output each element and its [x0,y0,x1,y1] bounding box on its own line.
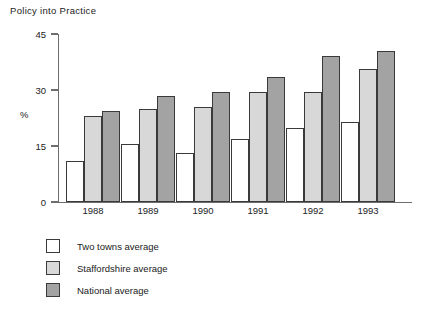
bar [194,107,212,202]
y-axis-tick-label: 45 [0,29,46,40]
bar [231,139,249,202]
x-axis-tick-label: 1988 [82,205,103,216]
bar [286,128,304,202]
y-axis-tick [51,201,58,202]
bar [304,92,322,202]
legend-item: Staffordshire average [46,260,168,276]
x-axis-tick-label: 1990 [192,205,213,216]
bar [267,77,285,202]
legend-swatch-icon [46,261,60,275]
bar [212,92,230,202]
legend-swatch-icon [46,239,60,253]
bar [176,153,194,202]
bar [121,144,139,202]
y-axis-tick [51,33,58,34]
bar [139,109,157,202]
legend-swatch-icon [46,283,60,297]
x-axis-tick-label: 1989 [137,205,158,216]
legend-item: Two towns average [46,238,159,254]
bar [157,96,175,202]
y-axis-tick [51,145,58,146]
x-axis-tick-label: 1991 [247,205,268,216]
legend-item: National average [46,282,149,298]
bar [377,51,395,202]
bar [341,122,359,202]
bar [249,92,267,202]
bar [359,69,377,202]
x-axis-line [58,202,412,203]
y-axis-tick-label: 0 [0,197,46,208]
x-axis-tick-label: 1992 [302,205,323,216]
legend-item-label: National average [77,285,149,296]
y-axis-tick-label: 30 [0,85,46,96]
y-axis-line [58,34,59,203]
bar [102,111,120,202]
legend-item-label: Two towns average [77,241,159,252]
bar [322,56,340,202]
x-axis-tick-label: 1993 [357,205,378,216]
bar [66,161,84,202]
bar [84,116,102,202]
legend-item-label: Staffordshire average [77,263,168,274]
y-axis-tick [51,89,58,90]
chart-container: Policy into Practice % 0153045 198819891… [0,0,429,311]
y-axis-tick-label: 15 [0,141,46,152]
